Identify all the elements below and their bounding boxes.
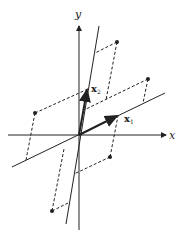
vector-x2-label: x2: [91, 83, 101, 95]
dashed-guides: [26, 42, 148, 211]
vector-x2: [79, 90, 87, 135]
point: [33, 111, 37, 115]
x-axis-label: x: [169, 129, 176, 142]
point: [146, 77, 150, 81]
vector-x1-label: x1: [124, 113, 134, 125]
point: [50, 209, 54, 213]
x2-span-line: [66, 26, 99, 224]
point: [115, 40, 119, 44]
point: [108, 155, 112, 159]
y-axis-label: y: [74, 8, 82, 21]
diagram-canvas: x y: [0, 0, 184, 235]
vector-x1: [79, 116, 117, 135]
data-points: [33, 40, 150, 213]
coordinate-diagram: x y: [0, 0, 184, 235]
